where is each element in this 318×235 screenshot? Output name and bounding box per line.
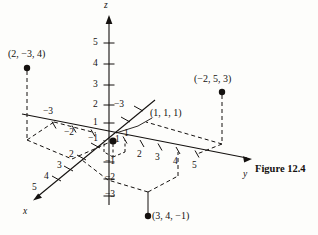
y-tick-neg1: −1 [88,134,98,144]
z-tick-neg1: −1 [105,157,115,167]
y-axis-label: y [243,170,247,180]
x-tick-2: 2 [69,150,74,160]
point-marker [24,65,30,71]
y-tick-neg3: −3 [43,107,53,117]
z-tick-4: 4 [93,59,98,69]
y-tick-3: 3 [155,153,160,163]
x-tick-1: 1 [115,135,120,145]
point-marker [145,213,151,219]
y-tick-neg2: −2 [64,128,74,138]
z-tick-neg2: −2 [105,173,115,183]
point-label-2-neg3-4: (2, −3, 4) [8,49,45,59]
z-tick-neg3: −3 [105,190,115,200]
point-label-neg2-5-3: (−2, 5, 3) [194,74,231,84]
z-tick-3: 3 [93,80,98,90]
x-tick-5: 5 [32,183,37,193]
x-tick-4: 4 [44,172,49,182]
y-tick-1: 1 [124,129,129,139]
x-tick-3: 3 [57,161,62,171]
x-tick-neg3-upper: −3 [114,100,124,110]
x-axis-label: x [23,207,27,217]
y-tick-5: 5 [192,161,197,171]
y-tick-2: 2 [137,150,142,160]
point-marker [219,89,225,95]
z-tick-1: 1 [93,118,98,128]
z-tick-5: 5 [93,38,98,48]
point-label-1-1-1: (1, 1, 1) [150,108,182,118]
point-label-3-4-neg1: (3, 4, −1) [152,211,189,221]
y-tick-4: 4 [173,157,178,167]
z-axis-label: z [104,1,108,11]
z-tick-2: 2 [93,100,98,110]
figure-caption: Figure 12.4 [255,164,306,175]
